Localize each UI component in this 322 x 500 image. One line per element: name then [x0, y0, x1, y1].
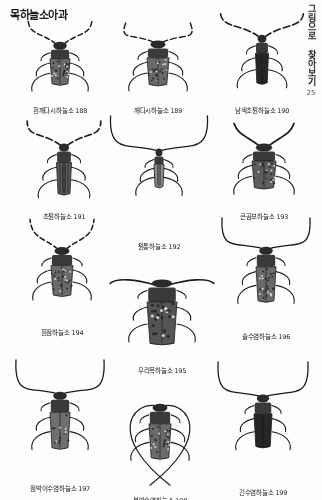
specimen-plate-190: 남색초원하늘소 190	[210, 8, 314, 115]
beetle-illustration-195	[108, 246, 216, 364]
specimen-caption-199: 긴수염하늘소 199	[239, 487, 287, 497]
specimen-caption-196: 솔수염하늘소 196	[242, 331, 290, 341]
specimen-plate-196: 솔수염하늘소 196	[216, 214, 316, 341]
beetle-illustration-197	[10, 356, 110, 482]
specimen-caption-197: 점박이수염하늘소 197	[30, 483, 90, 493]
beetle-illustration-190	[210, 8, 314, 104]
beetle-illustration-192	[104, 112, 214, 240]
specimen-plate-194: 흰점하늘소 194	[14, 216, 110, 337]
specimen-caption-188: 흰깨다시하늘소 188	[33, 105, 87, 115]
beetle-illustration-189	[112, 16, 204, 104]
beetle-illustration-191	[18, 118, 110, 210]
specimen-plate-198: 북방수염하늘소 198	[106, 368, 214, 500]
specimen-plate-193: 큰곰보하늘소 193	[216, 118, 312, 221]
beetle-illustration-198	[106, 368, 214, 494]
specimen-plate-192: 원통하늘소 192	[104, 112, 214, 251]
beetle-illustration-199	[212, 358, 314, 486]
specimen-plate-191: 초원하늘소 191	[18, 118, 110, 221]
specimen-plate-197: 점박이수염하늘소 197	[10, 356, 110, 493]
beetle-illustration-188	[12, 18, 108, 104]
specimen-plate-195: 우리목하늘소 195	[108, 246, 216, 375]
guide-page: 목하늘소아과 그림으로 찾아보기 25 흰깨다시하늘소 188깨다시하늘소 18…	[0, 0, 322, 500]
beetle-illustration-193	[216, 118, 312, 210]
specimen-caption-198: 북방수염하늘소 198	[133, 495, 187, 500]
beetle-illustration-194	[14, 216, 110, 326]
beetle-illustration-196	[216, 214, 316, 330]
specimen-plate-189: 깨다시하늘소 189	[112, 16, 204, 115]
specimen-plate-188: 흰깨다시하늘소 188	[12, 18, 108, 115]
specimen-plate-199: 긴수염하늘소 199	[212, 358, 314, 497]
specimen-caption-194: 흰점하늘소 194	[41, 327, 84, 337]
specimen-caption-190: 남색초원하늘소 190	[235, 105, 289, 115]
